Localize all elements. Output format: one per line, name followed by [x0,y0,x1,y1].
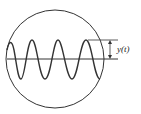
wave-diagram [0,0,141,114]
amplitude-label: y(t) [117,44,130,54]
arrow-head-up-icon [108,40,112,44]
arrow-head-down-icon [108,55,112,59]
